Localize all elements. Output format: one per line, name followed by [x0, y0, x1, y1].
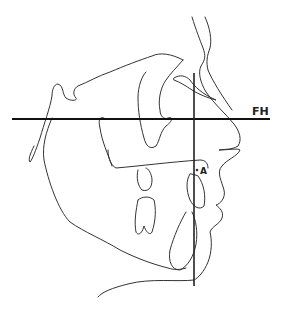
maxilla-outline — [108, 150, 208, 168]
cephalometric-diagram: FH A — [0, 0, 283, 311]
a-point-label: A — [200, 166, 207, 176]
upper-molar — [137, 168, 152, 191]
lower-molar — [135, 197, 155, 234]
a-point-marker — [196, 169, 199, 172]
mandible-outline — [43, 118, 186, 270]
incisors — [187, 174, 205, 208]
orbit-outline — [138, 60, 183, 148]
zygomatic-outline — [99, 117, 112, 166]
symphysis — [169, 212, 196, 270]
fh-label: FH — [252, 105, 269, 118]
